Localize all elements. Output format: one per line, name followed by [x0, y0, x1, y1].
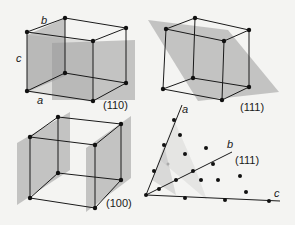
miller-indices-diagram: b c a (110) (111) [0, 0, 295, 225]
axis-label-b: b [41, 14, 47, 26]
axis-label-c: c [16, 52, 22, 64]
plane-label-111: (111) [240, 101, 264, 113]
plane-110-diag [27, 35, 93, 102]
axis-label-a: a [37, 94, 43, 106]
plane-label-100: (100) [106, 197, 132, 209]
panel-110: b c a (110) [16, 14, 135, 111]
lattice-axis-label-c: c [274, 187, 280, 199]
plane-100-left [17, 112, 70, 205]
plane-111 [148, 20, 279, 101]
lattice-axis-label-b: b [227, 138, 233, 150]
axis-c-line [146, 195, 280, 201]
lattice-plane-label-111: (111) [235, 154, 259, 166]
lattice-axis-label-a: a [182, 103, 188, 115]
plane-label-110: (110) [103, 99, 128, 111]
panel-100: (100) [17, 112, 132, 212]
panel-lattice-111: a b c (111) [144, 103, 280, 203]
panel-111: (111) [148, 16, 279, 113]
